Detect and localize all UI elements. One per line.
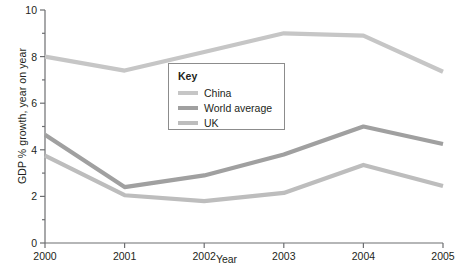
legend-swatch-icon [178, 106, 198, 110]
y-tick-label: 0 [11, 238, 37, 249]
x-tick-label: 2000 [22, 251, 68, 262]
legend-label: China [204, 87, 231, 99]
y-tick-label: 10 [11, 5, 37, 16]
legend-swatch-icon [178, 121, 198, 125]
legend-swatch-icon [178, 91, 198, 95]
y-axis-title: GDP % growth, year on year [16, 16, 28, 216]
legend-item: World average [178, 101, 272, 115]
legend-item: China [178, 86, 231, 100]
x-tick-label: 2004 [340, 251, 386, 262]
x-tick-label: 2001 [102, 251, 148, 262]
legend: Key ChinaWorld averageUK [168, 63, 285, 130]
series-line-world-average [45, 127, 443, 188]
legend-title: Key [178, 70, 197, 82]
y-tick-label: 8 [11, 52, 37, 63]
legend-label: UK [204, 117, 219, 129]
legend-label: World average [204, 102, 272, 114]
x-tick-label: 2002 [181, 251, 227, 262]
x-tick-label: 2003 [261, 251, 307, 262]
y-tick-label: 6 [11, 98, 37, 109]
y-tick-label: 4 [11, 145, 37, 156]
series-line-uk [45, 156, 443, 201]
y-tick-label: 2 [11, 191, 37, 202]
x-tick-label: 2005 [420, 251, 459, 262]
legend-item: UK [178, 116, 219, 130]
